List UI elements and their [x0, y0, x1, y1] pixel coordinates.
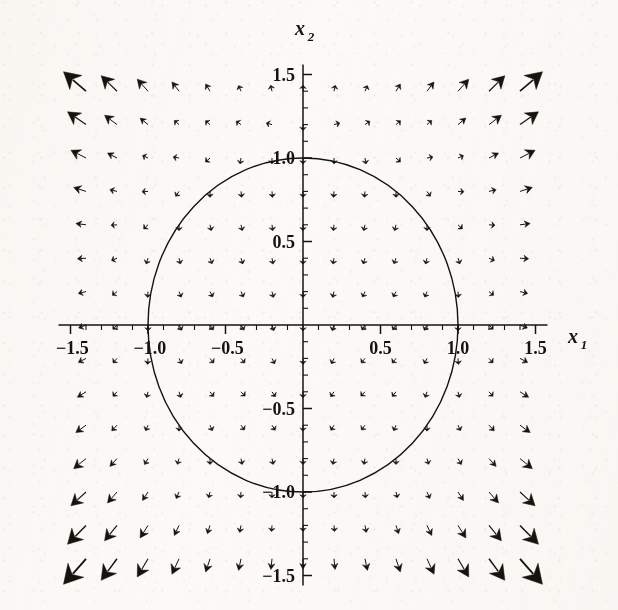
- field-arrow: [68, 112, 86, 125]
- field-arrow: [270, 292, 276, 298]
- field-arrow: [392, 392, 397, 397]
- field-arrow: [331, 191, 337, 197]
- field-arrow: [144, 224, 149, 229]
- field-arrow: [269, 525, 275, 531]
- field-arrow: [458, 79, 469, 91]
- arrow-shaft: [80, 425, 86, 429]
- field-arrow: [71, 492, 86, 506]
- arrow-shaft: [458, 225, 461, 227]
- arrow-shaft: [145, 157, 148, 158]
- arrow-shaft: [489, 292, 492, 294]
- field-arrow: [177, 392, 183, 398]
- arrow-shaft: [396, 158, 399, 160]
- arrow-shaft: [489, 258, 492, 259]
- field-arrow: [489, 459, 496, 467]
- field-arrow: [270, 358, 276, 363]
- field-arrow: [137, 79, 148, 91]
- field-arrow: [208, 425, 214, 430]
- field-arrow: [206, 525, 212, 533]
- arrow-shaft: [426, 258, 427, 261]
- arrow-head: [76, 425, 84, 432]
- arrow-shaft: [489, 492, 495, 498]
- field-arrow: [423, 392, 429, 398]
- arrow-head: [458, 529, 466, 538]
- field-arrow: [71, 150, 86, 159]
- x-axis-label: x: [567, 325, 578, 347]
- field-arrow: [207, 225, 213, 231]
- arrow-shaft: [458, 121, 463, 125]
- arrow-shaft: [396, 492, 397, 495]
- arrow-shaft: [489, 119, 496, 125]
- arrow-shaft: [113, 459, 117, 464]
- arrow-shaft: [175, 559, 179, 568]
- field-arrow: [107, 153, 117, 159]
- field-arrow: [238, 191, 244, 197]
- arrow-shaft: [176, 525, 179, 531]
- arrow-shaft: [332, 392, 334, 395]
- y-tick-label: 1.0: [273, 148, 296, 168]
- field-arrow: [458, 525, 466, 538]
- arrow-shaft: [142, 559, 148, 570]
- arrow-shaft: [241, 358, 243, 361]
- field-arrow: [520, 357, 528, 363]
- field-arrow: [74, 459, 86, 469]
- arrow-shaft: [489, 392, 491, 395]
- arrow-shaft: [272, 459, 273, 462]
- arrow-shaft: [272, 292, 273, 295]
- arrow-shaft: [81, 392, 86, 395]
- field-arrow: [105, 525, 117, 540]
- arrow-shaft: [520, 117, 531, 125]
- field-arrow: [331, 525, 337, 531]
- field-arrow: [140, 525, 148, 538]
- field-arrow: [489, 492, 499, 503]
- arrow-shaft: [489, 155, 495, 158]
- field-arrow: [239, 292, 245, 297]
- arrow-shaft: [520, 189, 527, 191]
- field-arrow: [330, 258, 336, 264]
- field-arrow: [394, 559, 402, 572]
- arrow-head: [77, 392, 83, 398]
- arrow-shaft: [489, 425, 492, 428]
- field-arrow: [427, 82, 434, 91]
- field-arrow: [334, 121, 340, 127]
- field-arrow: [456, 258, 462, 264]
- field-arrow: [423, 358, 429, 363]
- field-arrow: [331, 559, 338, 570]
- field-arrow: [458, 224, 463, 229]
- arrow-shaft: [207, 87, 210, 91]
- field-arrow: [423, 292, 429, 298]
- axes: [59, 65, 548, 586]
- field-arrow: [392, 258, 398, 264]
- field-arrow: [176, 225, 182, 231]
- arrow-shaft: [241, 292, 242, 295]
- arrow-shaft: [207, 158, 210, 160]
- field-arrow: [520, 425, 530, 432]
- field-arrow: [111, 256, 117, 262]
- arrow-shaft: [145, 492, 148, 497]
- arrow-shaft: [240, 158, 241, 161]
- field-arrow: [268, 85, 274, 91]
- arrow-shaft: [207, 122, 210, 124]
- arrow-shaft: [179, 358, 181, 361]
- arrow-shaft: [209, 492, 210, 495]
- field-arrow: [175, 459, 181, 465]
- arrow-shaft: [147, 258, 148, 261]
- arrow-shaft: [395, 425, 396, 428]
- arrow-shaft: [179, 292, 180, 295]
- field-arrow: [330, 425, 335, 430]
- field-arrow: [362, 492, 368, 498]
- field-arrow: [174, 525, 180, 535]
- field-arrow: [113, 392, 118, 397]
- arrow-shaft: [210, 392, 212, 395]
- x-tick-label: 0.5: [369, 338, 392, 358]
- field-arrow: [489, 76, 505, 91]
- arrow-shaft: [241, 225, 242, 228]
- field-arrow: [77, 255, 86, 261]
- arrow-shaft: [73, 559, 86, 574]
- arrow-shaft: [75, 117, 86, 125]
- field-arrow: [238, 225, 244, 231]
- x-tick-label: −0.5: [211, 338, 244, 358]
- field-arrow: [269, 225, 275, 231]
- arrow-shaft: [520, 292, 525, 293]
- field-arrow: [266, 121, 272, 127]
